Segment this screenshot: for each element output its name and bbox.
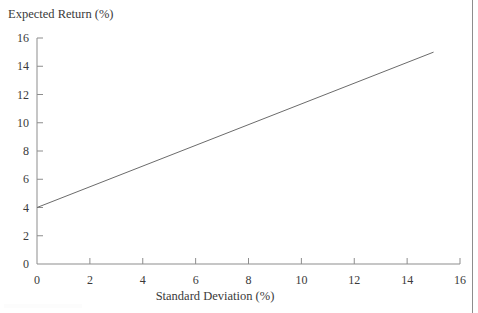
x-axis-ticks — [90, 258, 460, 264]
x-tick-label: 0 — [24, 274, 50, 286]
x-tick-label: 6 — [183, 274, 209, 286]
y-tick-label: 10 — [3, 117, 29, 129]
data-series-group — [37, 52, 434, 207]
y-tick-label: 12 — [3, 89, 29, 101]
y-tick-label: 14 — [3, 60, 29, 72]
y-tick-label: 6 — [3, 173, 29, 185]
page-edge-rule — [472, 0, 473, 313]
page-artifact — [4, 304, 82, 308]
x-axis-title-text: Standard Deviation (%) — [156, 289, 275, 303]
x-tick-label: 10 — [288, 274, 314, 286]
plot-area — [0, 0, 478, 313]
x-tick-label: 12 — [341, 274, 367, 286]
series-line-0 — [37, 52, 434, 207]
x-tick-label: 14 — [394, 274, 420, 286]
chart-figure: Expected Return (%) 0246810121416 024681… — [0, 0, 478, 313]
y-tick-label: 4 — [3, 202, 29, 214]
y-tick-label: 0 — [3, 258, 29, 270]
y-tick-label: 16 — [3, 32, 29, 44]
y-tick-label: 8 — [3, 145, 29, 157]
x-tick-label: 4 — [130, 274, 156, 286]
x-tick-label: 8 — [236, 274, 262, 286]
x-tick-label: 16 — [447, 274, 473, 286]
x-axis-title: Standard Deviation (%) — [0, 289, 478, 303]
x-tick-label: 2 — [77, 274, 103, 286]
y-tick-label: 2 — [3, 230, 29, 242]
